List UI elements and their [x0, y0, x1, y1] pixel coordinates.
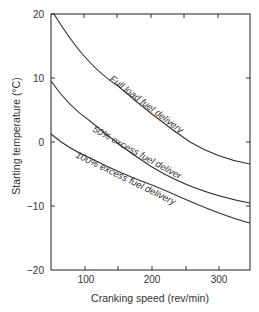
y-axis-title: Starting temperature (°C) [10, 77, 22, 194]
y-ticks-right [246, 78, 250, 206]
y-ticks-left [51, 14, 55, 206]
y-tick-label-minus10: −10 [27, 201, 44, 212]
x-tick-label-100: 100 [78, 274, 95, 285]
chart: 20 10 0 −10 −20 100 200 300 Cranking spe… [0, 0, 259, 312]
x-ticks-top [84, 14, 218, 18]
x-axis-title: Cranking speed (rev/min) [91, 292, 209, 304]
curve-full-load [54, 14, 250, 164]
curve-100-excess [51, 134, 250, 223]
y-tick-label-0: 0 [38, 137, 44, 148]
label-full-load: Full load fuel delivery [108, 73, 187, 136]
x-tick-label-300: 300 [211, 274, 228, 285]
y-tick-label-minus20: −20 [27, 265, 44, 276]
x-ticks-bottom [85, 266, 219, 270]
x-tick-label-200: 200 [144, 274, 161, 285]
y-tick-label-20: 20 [33, 9, 45, 20]
y-tick-label-10: 10 [33, 73, 45, 84]
label-100-excess: 100% excess fuel delivery [74, 149, 179, 208]
